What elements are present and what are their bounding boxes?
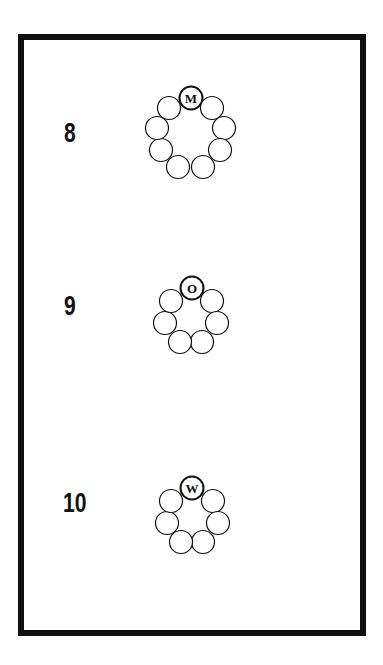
letter-circle-empty	[207, 512, 230, 535]
letter-circle-empty	[160, 490, 183, 513]
given-letter: W	[186, 481, 199, 496]
letter-circle-empty	[170, 531, 193, 554]
letter-circle-empty	[156, 512, 179, 535]
letter-circle-empty	[192, 531, 215, 554]
letter-circle-filled: W	[181, 477, 204, 500]
ring-circles-10: W	[0, 0, 383, 665]
letter-circle-empty	[202, 490, 225, 513]
